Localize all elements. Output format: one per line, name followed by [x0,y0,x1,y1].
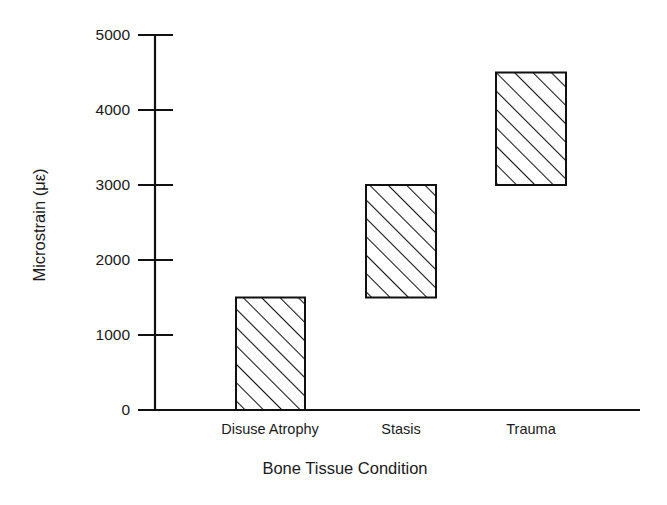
bar-disuse-atrophy [236,298,305,411]
x-tick-label-stasis: Stasis [381,421,421,437]
y-tick-label-2000: 2000 [96,251,131,268]
bar-stasis [366,185,436,298]
y-axis-title: Microstrain (με) [30,168,48,281]
y-tick-label-0: 0 [121,401,130,418]
x-tick-label-disuse-atrophy: Disuse Atrophy [221,421,319,437]
y-tick-label-5000: 5000 [96,26,131,43]
y-tick-label-4000: 4000 [96,101,131,118]
y-tick-label-3000: 3000 [96,176,131,193]
x-axis-title: Bone Tissue Condition [262,459,427,477]
chart-figure: 5000 4000 3000 2000 1000 0 Microstrain (… [0,0,667,505]
y-tick-label-1000: 1000 [96,326,131,343]
x-tick-label-trauma: Trauma [506,421,556,437]
bar-chart-canvas: 5000 4000 3000 2000 1000 0 Microstrain (… [0,0,667,505]
bar-trauma [496,73,566,186]
